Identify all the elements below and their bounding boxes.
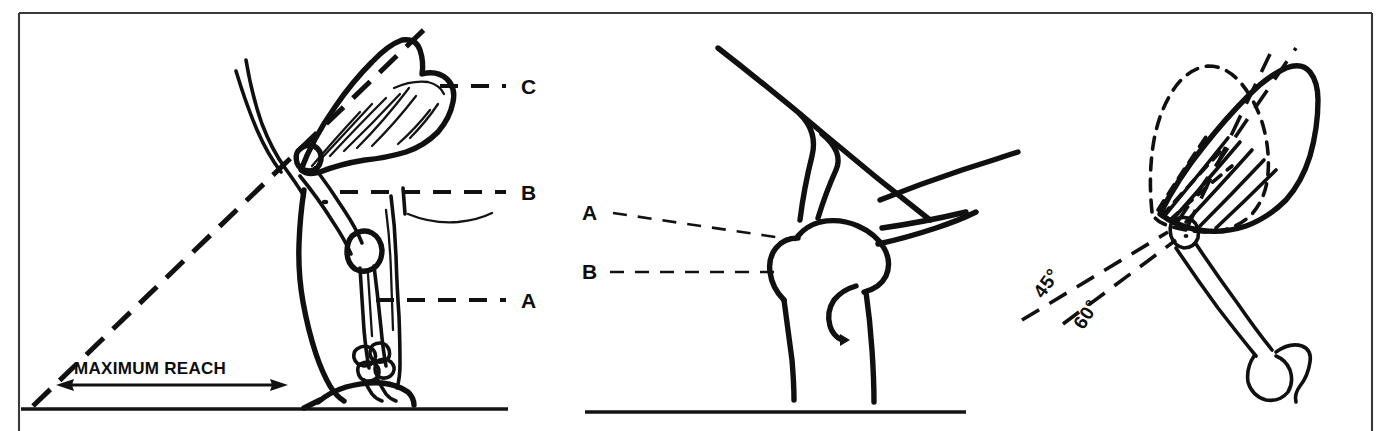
arrow-right-icon: [270, 379, 288, 391]
maximum-reach-dimension: [56, 379, 288, 391]
leg-front-contour: [299, 190, 344, 401]
limb-shaft-right-front: [1176, 248, 1256, 356]
scapula-hatching: [312, 88, 438, 166]
ink-speck: [322, 200, 328, 204]
shaft-left-edge: [784, 300, 794, 400]
limb-shaft-right-back: [1196, 244, 1272, 350]
condyle-top: [798, 221, 889, 292]
pastern-right: [1276, 345, 1310, 402]
tendon-upper: [800, 114, 814, 220]
callout-letter-a-middle: A: [582, 202, 597, 223]
scapula-detail-arc: [394, 82, 444, 94]
callout-letter-c: C: [521, 76, 536, 97]
radius-inner-line: [368, 274, 372, 336]
carpal-bones: [354, 343, 394, 381]
crest-extension: [880, 152, 1018, 200]
callout-letter-b-middle: B: [582, 261, 597, 282]
arrow-left-icon: [56, 379, 74, 391]
panel-left-content: [21, 22, 508, 409]
intercondylar-groove: [829, 286, 856, 340]
panel-middle-content: [585, 48, 976, 412]
humerus-bone-2: [300, 176, 351, 254]
figure-root: C B A MAXIMUM REACH A B 45° 60°: [0, 0, 1390, 431]
forearm-sweep: [408, 213, 492, 222]
tendon-lower: [818, 134, 838, 218]
elbow-joint: [347, 231, 382, 271]
callout-letter-b: B: [521, 182, 536, 203]
shaft-right-edge: [866, 292, 874, 402]
leg-rear-inner: [386, 210, 393, 330]
groove-tip: [840, 334, 850, 346]
tuberosity-left: [770, 238, 798, 300]
maximum-reach-caption: MAXIMUM REACH: [74, 360, 226, 377]
ink-speck-right: [1184, 234, 1189, 238]
callout-letter-a: A: [521, 290, 536, 311]
hoof-right: [1248, 356, 1292, 400]
trunk-contour-2: [236, 71, 281, 172]
hoof-heel: [304, 400, 320, 408]
leader-line-a-middle: [613, 213, 796, 240]
